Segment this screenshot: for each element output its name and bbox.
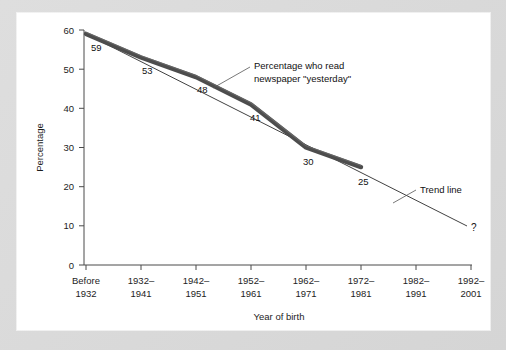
y-tick-label-20: 20 xyxy=(63,181,74,192)
x-tick-label-4-line2: 1971 xyxy=(295,288,316,299)
x-tick-label-3: 1952– 1961 xyxy=(238,275,265,299)
x-tick-label-7-line1: 1992– xyxy=(458,275,485,286)
x-tick-label-6: 1982– 1991 xyxy=(403,275,430,299)
y-axis-ticks xyxy=(79,30,84,265)
data-label-30: 30 xyxy=(303,156,314,167)
x-tick-label-0-line2: 1932 xyxy=(75,288,96,299)
x-tick-label-4-line1: 1962– xyxy=(293,275,320,286)
data-label-25: 25 xyxy=(358,176,369,187)
x-tick-label-1: 1932– 1941 xyxy=(128,275,155,299)
data-label-48: 48 xyxy=(197,84,208,95)
x-tick-label-7: 1992– 2001 xyxy=(458,275,485,299)
series-annotation-leader xyxy=(213,67,250,88)
series-annotation-line2: newspaper "yesterday" xyxy=(254,73,351,84)
x-tick-label-2-line2: 1951 xyxy=(185,288,206,299)
trend-annotation-leader xyxy=(393,190,416,203)
x-tick-label-4: 1962– 1971 xyxy=(293,275,320,299)
data-label-59: 59 xyxy=(91,42,102,53)
y-tick-label-30: 30 xyxy=(63,142,74,153)
data-series-path[interactable] xyxy=(86,34,361,167)
y-tick-label-0: 0 xyxy=(69,260,74,271)
data-label-41: 41 xyxy=(250,112,261,123)
x-tick-label-0-line1: Before xyxy=(72,275,100,286)
x-tick-label-1-line1: 1932– xyxy=(128,275,155,286)
x-tick-label-3-line1: 1952– xyxy=(238,275,265,286)
x-tick-label-7-line2: 2001 xyxy=(460,288,481,299)
x-tick-label-6-line2: 1991 xyxy=(405,288,426,299)
x-tick-label-3-line2: 1961 xyxy=(240,288,261,299)
series-annotation-line1: Percentage who read xyxy=(254,60,344,71)
y-tick-label-40: 40 xyxy=(63,103,74,114)
y-tick-label-10: 10 xyxy=(63,220,74,231)
x-tick-label-0: Before 1932 xyxy=(72,275,100,299)
y-tick-label-60: 60 xyxy=(63,25,74,36)
chart-plot-card: 0 10 20 30 40 50 60 Percentage Be xyxy=(17,13,490,330)
y-tick-label-50: 50 xyxy=(63,64,74,75)
x-tick-label-5-line2: 1981 xyxy=(350,288,371,299)
x-axis-title: Year of birth xyxy=(254,311,305,322)
x-tick-label-5-line1: 1972– xyxy=(348,275,375,286)
y-axis-title: Percentage xyxy=(34,123,45,172)
figure-background: 0 10 20 30 40 50 60 Percentage Be xyxy=(0,0,506,350)
x-axis-ticks xyxy=(86,265,471,270)
x-tick-label-6-line1: 1982– xyxy=(403,275,430,286)
x-tick-label-5: 1972– 1981 xyxy=(348,275,375,299)
x-tick-label-1-line2: 1941 xyxy=(130,288,151,299)
x-tick-label-2-line1: 1942– xyxy=(183,275,210,286)
x-tick-label-2: 1942– 1951 xyxy=(183,275,210,299)
trend-annotation-label: Trend line xyxy=(420,184,462,195)
trend-endpoint-question-mark: ? xyxy=(471,222,477,233)
line-chart[interactable]: 0 10 20 30 40 50 60 Percentage Be xyxy=(17,13,490,330)
data-label-53: 53 xyxy=(142,65,153,76)
